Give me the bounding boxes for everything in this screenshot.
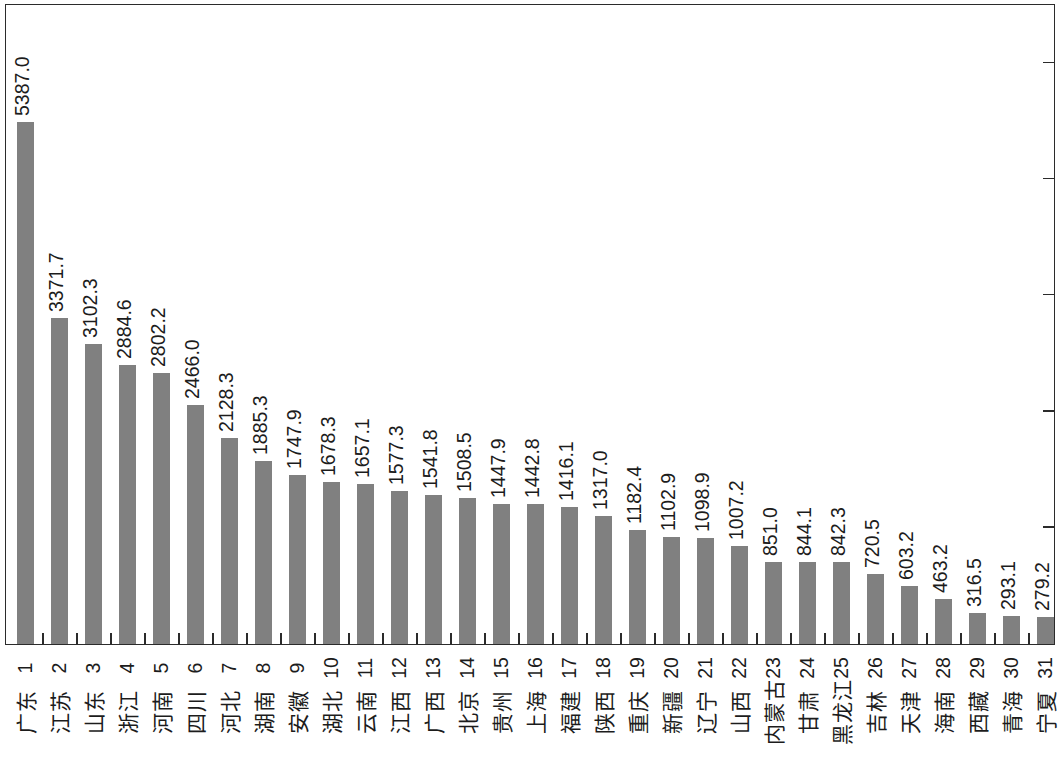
category-text: 青海	[996, 690, 1026, 734]
x-tick	[824, 633, 826, 644]
bar-value-text: 844.1	[793, 507, 816, 556]
category-text: 宁夏	[1030, 690, 1060, 734]
bar-rect	[969, 613, 986, 644]
bar-value-text: 316.5	[963, 559, 986, 608]
x-tick	[688, 633, 690, 644]
category-text: 福建	[554, 690, 584, 734]
x-tick	[960, 633, 962, 644]
rank-text: 16	[523, 657, 546, 679]
category-text: 新疆	[656, 690, 686, 734]
category-text: 云南	[350, 690, 380, 734]
rank-text: 9	[285, 663, 308, 674]
bar-rect	[697, 538, 714, 644]
bar-value-text: 2466.0	[181, 340, 204, 400]
bar-rect	[935, 599, 952, 644]
x-tick	[892, 633, 894, 644]
bars-layer: 5387.03371.73102.32884.62802.22466.02128…	[6, 5, 1054, 644]
rank-text: 18	[591, 657, 614, 679]
category-text: 内蒙古	[758, 679, 788, 745]
bar-value-text: 842.3	[827, 508, 850, 557]
bar-value-text: 1416.1	[555, 441, 578, 501]
bar-value-text: 2802.2	[147, 307, 170, 367]
x-tick	[518, 633, 520, 644]
bar-value-text: 1447.9	[487, 438, 510, 498]
category-text: 天津	[894, 690, 924, 734]
bar-value-text: 3102.3	[79, 278, 102, 338]
x-tick	[280, 633, 282, 644]
rank-text: 2	[47, 663, 70, 674]
bar-rect	[901, 586, 918, 644]
bar-rect	[595, 516, 612, 644]
y-tick	[1043, 526, 1054, 528]
x-tick	[76, 633, 78, 644]
rank-text: 31	[1033, 657, 1056, 679]
y-tick	[1043, 178, 1054, 180]
rank-text: 28	[931, 657, 954, 679]
bar-rect	[493, 504, 510, 644]
bar-value-text: 851.0	[759, 507, 782, 556]
rank-text: 10	[319, 657, 342, 679]
bar-rect	[765, 562, 782, 644]
bar-rect	[187, 405, 204, 644]
bar-value-text: 5387.0	[11, 57, 34, 117]
category-text: 江西	[384, 690, 414, 734]
rank-text: 3	[81, 663, 104, 674]
rank-text: 24	[795, 657, 818, 679]
y-tick	[1043, 62, 1054, 64]
rank-text: 25	[829, 657, 852, 679]
category-text: 黑龙江	[826, 679, 856, 745]
bar-rect	[799, 562, 816, 644]
bar-rect	[255, 461, 272, 644]
x-tick	[42, 633, 44, 644]
x-tick	[926, 633, 928, 644]
rank-text: 19	[625, 657, 648, 679]
bar-value-text: 293.1	[997, 561, 1020, 610]
bar-rect	[17, 122, 34, 644]
rank-text: 22	[727, 657, 750, 679]
bar-rect	[357, 484, 374, 644]
category-text: 广东	[10, 690, 40, 734]
category-text: 四川	[180, 690, 210, 734]
bar-rect	[391, 491, 408, 644]
category-text: 贵州	[486, 690, 516, 734]
y-tick	[1043, 410, 1054, 412]
bar-rect	[527, 504, 544, 644]
x-tick	[722, 633, 724, 644]
bar-rect	[51, 318, 68, 644]
category-text: 北京	[452, 690, 482, 734]
x-tick	[858, 633, 860, 644]
bar-rect	[459, 498, 476, 644]
category-text: 浙江	[112, 690, 142, 734]
chart-page: 5387.03371.73102.32884.62802.22466.02128…	[0, 0, 1060, 776]
bar-value-text: 2884.6	[113, 299, 136, 359]
bar-rect	[323, 482, 340, 645]
x-tick	[178, 633, 180, 644]
bar-rect	[85, 344, 102, 644]
category-text: 江苏	[44, 690, 74, 734]
bar-value-text: 1098.9	[691, 472, 714, 532]
bar-rect	[561, 507, 578, 644]
rank-text: 13	[421, 657, 444, 679]
bar-value-text: 463.2	[929, 544, 952, 593]
category-text: 陕西	[588, 690, 618, 734]
bar-value-text: 1577.3	[385, 426, 408, 486]
x-tick	[314, 633, 316, 644]
bar-rect	[221, 438, 238, 644]
x-tick	[416, 633, 418, 644]
plot-frame: 5387.03371.73102.32884.62802.22466.02128…	[5, 4, 1055, 645]
x-tick	[484, 633, 486, 644]
bar-rect	[629, 530, 646, 644]
category-text: 山东	[78, 690, 108, 734]
x-tick	[144, 633, 146, 644]
category-text: 甘肃	[792, 690, 822, 734]
bar-rect	[289, 475, 306, 644]
category-text: 海南	[928, 690, 958, 734]
x-tick	[586, 633, 588, 644]
bar-rect	[1003, 616, 1020, 644]
x-tick	[756, 633, 758, 644]
rank-text: 17	[557, 657, 580, 679]
x-tick	[212, 633, 214, 644]
bar-value-text: 1885.3	[249, 396, 272, 456]
category-text: 河北	[214, 690, 244, 734]
bar-value-text: 1007.2	[725, 481, 748, 541]
